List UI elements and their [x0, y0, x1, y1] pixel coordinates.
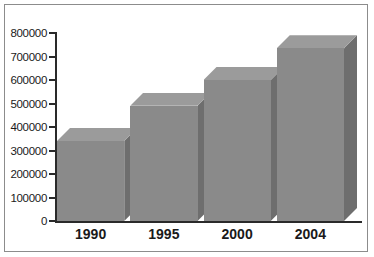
bar-top-face [130, 93, 210, 106]
bar-chart-figure: 8000007000006000005000004000003000002000… [0, 0, 374, 257]
y-tick-mark [49, 56, 56, 58]
x-tick-label: 2000 [204, 226, 271, 242]
y-tick-label: 600000 [0, 74, 47, 86]
bar-front-face [57, 141, 124, 221]
x-tick-label: 1990 [57, 226, 124, 242]
y-tick-label: 200000 [0, 168, 47, 180]
bar-top-face [204, 67, 284, 80]
bar-front-face [130, 106, 197, 221]
x-tick-label: 1995 [130, 226, 197, 242]
y-tick-label: 400000 [0, 121, 47, 133]
y-tick-label: 300000 [0, 145, 47, 157]
y-tick-label: 500000 [0, 98, 47, 110]
y-tick-mark [49, 220, 56, 222]
y-tick-label: 100000 [0, 192, 47, 204]
y-tick-label: 700000 [0, 51, 47, 63]
y-tick-mark [49, 150, 56, 152]
y-tick-label: 800000 [0, 27, 47, 39]
bar-front-face [277, 48, 344, 221]
y-tick-mark [49, 103, 56, 105]
x-tick-label: 2004 [277, 226, 344, 242]
y-tick-mark [49, 126, 56, 128]
bar-side-face [344, 35, 357, 221]
bar-front-face [204, 80, 271, 221]
y-tick-label: 0 [0, 215, 47, 227]
y-tick-mark [49, 197, 56, 199]
x-axis-line [55, 221, 362, 223]
y-tick-mark [49, 32, 56, 34]
bar-top-face [277, 35, 357, 48]
y-tick-mark [49, 173, 56, 175]
bar-top-face [57, 128, 137, 141]
y-tick-mark [49, 79, 56, 81]
